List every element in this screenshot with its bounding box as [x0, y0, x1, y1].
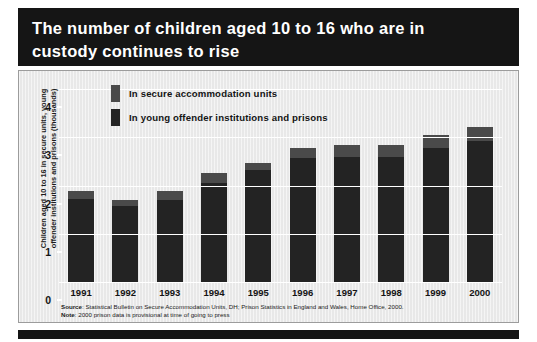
bar-column: [68, 191, 94, 282]
bar-segment-young-offender-institutions: [423, 148, 449, 282]
chart-panel: Children aged 10 to 16 in secure units, …: [18, 70, 519, 323]
y-tick-label: 4: [45, 101, 51, 113]
y-tick-label: 0: [45, 294, 51, 306]
bar-column: [245, 163, 271, 282]
bar-segment-young-offender-institutions: [157, 200, 183, 282]
y-tick-label: 1: [45, 246, 51, 258]
bar-segment-young-offender-institutions: [201, 183, 227, 282]
title-band: The number of children aged 10 to 16 who…: [18, 8, 519, 66]
bar-column: [201, 173, 227, 282]
legend-item-young-offender-institutions-and-prisons: In young offender institutions and priso…: [111, 109, 328, 126]
bottom-rule: [18, 330, 519, 339]
gridline: [59, 234, 502, 235]
page-title: The number of children aged 10 to 16 who…: [32, 17, 505, 63]
legend-swatch-icon: [111, 85, 120, 102]
bar-column: [157, 191, 183, 282]
bar-segment-secure-accommodation-units: [467, 127, 493, 141]
bar-segment-secure-accommodation-units: [290, 148, 316, 158]
figure-root: The number of children aged 10 to 16 who…: [0, 0, 537, 342]
y-tick-label: 2: [45, 198, 51, 210]
y-tick-label: 3: [45, 149, 51, 161]
note-text: : 2000 prison data is provisional at tim…: [75, 311, 230, 318]
source-line: Source: Statistical Bulletin on Secure A…: [61, 303, 511, 311]
bar-segment-young-offender-institutions: [334, 157, 360, 282]
bar-segment-secure-accommodation-units: [245, 163, 271, 170]
bar-segment-young-offender-institutions: [112, 206, 138, 282]
x-tick-label: 1994: [203, 287, 224, 298]
x-tick-label: 1996: [292, 287, 313, 298]
x-tick-label: 1999: [425, 287, 446, 298]
bar-segment-secure-accommodation-units: [378, 145, 404, 158]
y-axis-ticks: 01234: [19, 89, 57, 282]
bar-column: [378, 145, 404, 283]
gridline: [59, 186, 502, 187]
bar-column: [467, 127, 493, 282]
bar-segment-young-offender-institutions: [378, 157, 404, 282]
bar-segment-young-offender-institutions: [245, 170, 271, 282]
chart-footnotes: Source: Statistical Bulletin on Secure A…: [61, 303, 511, 319]
bar-column: [423, 135, 449, 282]
x-tick-label: 1998: [381, 287, 402, 298]
bar-segment-secure-accommodation-units: [157, 191, 183, 200]
x-tick-label: 1991: [71, 287, 92, 298]
x-tick-label: 2000: [469, 287, 490, 298]
source-label: Source: [61, 303, 82, 310]
bar-segment-young-offender-institutions: [467, 141, 493, 282]
legend-label: In secure accommodation units: [129, 88, 277, 99]
note-line: Note: 2000 prison data is provisional at…: [61, 311, 511, 319]
note-label: Note: [61, 311, 75, 318]
bar-segment-secure-accommodation-units: [68, 191, 94, 198]
bar-segment-secure-accommodation-units: [112, 200, 138, 207]
bar-column: [334, 145, 360, 283]
gridline: [59, 137, 502, 138]
x-tick-label: 1997: [336, 287, 357, 298]
bar-segment-secure-accommodation-units: [334, 145, 360, 158]
bar-segment-young-offender-institutions: [290, 158, 316, 282]
legend-label: In young offender institutions and priso…: [129, 112, 328, 123]
x-axis-ticks: 1991199219931994199519961997199819992000: [59, 282, 502, 302]
x-tick-label: 1995: [248, 287, 269, 298]
x-tick-label: 1992: [115, 287, 136, 298]
bar-column: [112, 200, 138, 283]
bar-segment-young-offender-institutions: [68, 199, 94, 282]
bar-column: [290, 148, 316, 282]
x-tick-label: 1993: [159, 287, 180, 298]
legend-swatch-icon: [111, 109, 120, 126]
chart-legend: In secure accommodation unitsIn young of…: [111, 85, 328, 133]
legend-item-secure-accommodation-units: In secure accommodation units: [111, 85, 328, 102]
bar-segment-secure-accommodation-units: [201, 173, 227, 183]
source-text: : Statistical Bulletin on Secure Accommo…: [82, 303, 404, 310]
